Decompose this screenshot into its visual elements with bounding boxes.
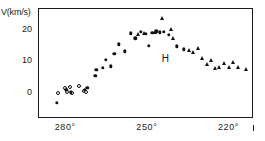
data-point-triangle — [191, 50, 195, 54]
data-point-filled-circle — [101, 66, 104, 69]
y-tick-label: 10 — [6, 55, 32, 65]
data-point-triangle — [236, 65, 240, 69]
data-point-filled-circle — [113, 52, 116, 55]
data-point-filled-circle — [104, 58, 107, 61]
figure-root: V(km/s) 01020 280°250°220° H — [0, 0, 265, 141]
data-point-filled-circle — [162, 30, 165, 33]
data-point-triangle — [244, 67, 248, 71]
data-point-triangle — [169, 27, 173, 31]
data-point-filled-circle — [123, 50, 126, 53]
data-point-open-circle — [56, 91, 60, 95]
data-point-triangle — [153, 30, 157, 34]
data-point-filled-circle — [129, 31, 132, 34]
data-point-triangle — [160, 16, 164, 20]
data-point-filled-circle — [175, 45, 178, 48]
data-point-filled-circle — [86, 86, 89, 89]
y-tick-label: 20 — [6, 24, 32, 34]
data-point-triangle — [171, 36, 175, 40]
data-point-filled-circle — [133, 37, 136, 40]
x-tick-label: 220° — [209, 122, 249, 132]
data-point-triangle — [231, 60, 235, 64]
y-tick-label: 0 — [6, 87, 32, 97]
data-point-triangle — [136, 32, 140, 36]
axis-end-tick — [253, 125, 254, 131]
data-point-filled-circle — [93, 74, 96, 77]
data-point-filled-circle — [109, 65, 112, 68]
plot-data-area: H — [38, 8, 253, 118]
data-point-filled-circle — [55, 101, 58, 104]
data-point-triangle — [222, 61, 226, 65]
x-tick-label: 280° — [45, 122, 85, 132]
data-point-filled-circle — [147, 44, 150, 47]
data-point-triangle — [200, 56, 204, 60]
x-tick-label: 250° — [127, 122, 167, 132]
data-point-triangle — [217, 65, 221, 69]
y-axis-title: V(km/s) — [1, 7, 31, 17]
data-point-triangle — [209, 58, 213, 62]
data-point-triangle — [227, 65, 231, 69]
data-point-filled-circle — [95, 68, 98, 71]
data-point-open-circle — [68, 85, 72, 89]
data-point-filled-circle — [167, 33, 170, 36]
data-point-triangle — [196, 46, 200, 50]
data-point-open-circle — [77, 84, 81, 88]
plot-annotation-label: H — [162, 52, 169, 63]
data-point-filled-circle — [117, 43, 120, 46]
data-point-filled-circle — [182, 47, 185, 50]
data-point-triangle — [142, 31, 146, 35]
